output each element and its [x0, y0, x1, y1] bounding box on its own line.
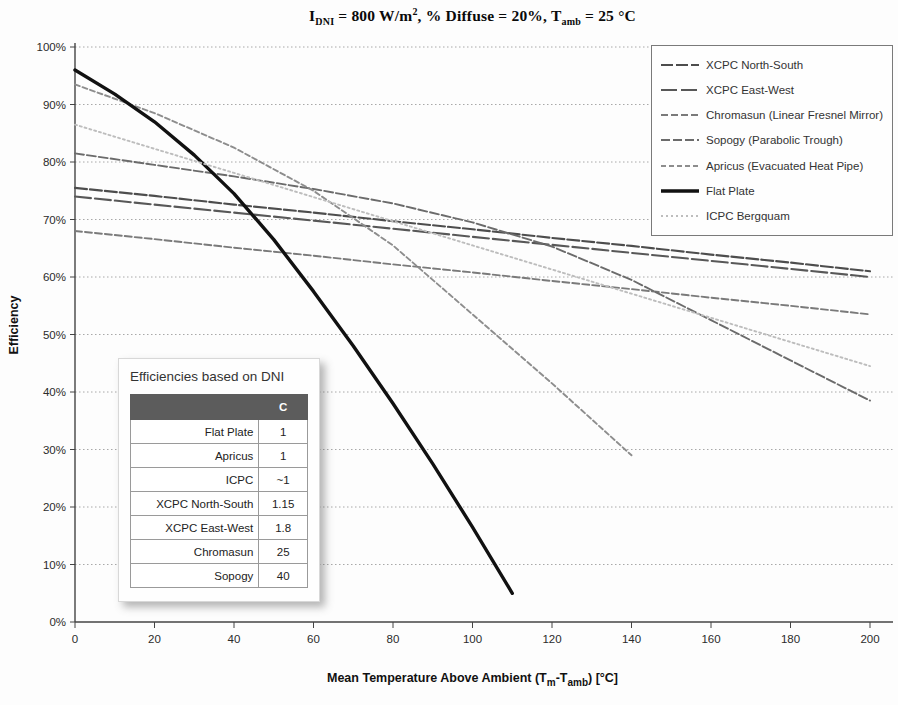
inset-table-row: Sopogy40 [131, 564, 308, 588]
x-axis-title: Mean Temperature Above Ambient (Tm-Tamb)… [75, 671, 870, 688]
concentration-value-cell: 40 [259, 564, 308, 588]
chart-page: 0%10%20%30%40%50%60%70%80%90%100%0204060… [0, 0, 898, 705]
text-segment: m [547, 677, 556, 688]
legend-item-flat_plate: Flat Plate [660, 179, 884, 203]
text-segment: Mean Temperature Above Ambient (T [327, 671, 547, 685]
legend-label: Flat Plate [706, 185, 755, 197]
legend-line-sample-apricus [660, 161, 700, 171]
y-tick-label: 40% [43, 386, 66, 398]
x-tick-label: 140 [622, 633, 641, 645]
x-tick-label: 40 [228, 633, 241, 645]
x-tick-label: 60 [307, 633, 320, 645]
y-tick-label: 0% [49, 616, 66, 628]
text-segment: = 800 W/m [334, 7, 412, 24]
legend-line-sample-flat_plate [660, 186, 700, 196]
legend-line-sample-xcpc_ns [660, 60, 700, 70]
concentration-value-cell: 1 [259, 444, 308, 468]
legend-line-sample-chromasun [660, 110, 700, 120]
collector-name-cell: ICPC [131, 468, 259, 492]
x-tick-label: 20 [148, 633, 161, 645]
y-tick-label: 100% [37, 41, 66, 53]
text-segment: amb [561, 16, 581, 27]
y-tick-label: 50% [43, 329, 66, 341]
x-tick-label: 160 [701, 633, 720, 645]
text-segment: -T [556, 671, 568, 685]
y-axis-title: Efficiency [7, 275, 21, 375]
concentration-value-cell: 1.8 [259, 516, 308, 540]
series-line-chromasun [75, 231, 870, 314]
y-tick-label: 10% [43, 559, 66, 571]
inset-table-row: Apricus1 [131, 444, 308, 468]
x-tick-label: 0 [72, 633, 78, 645]
legend-line-sample-sopogy [660, 135, 700, 145]
x-tick-label: 120 [542, 633, 561, 645]
y-tick-label: 80% [43, 156, 66, 168]
legend-item-apricus: Apricus (Evacuated Heat Pipe) [660, 154, 884, 178]
x-tick-label: 80 [387, 633, 400, 645]
legend-item-xcpc_ns: XCPC North-South [660, 53, 884, 77]
y-tick-label: 60% [43, 271, 66, 283]
legend-item-xcpc_ew: XCPC East-West [660, 78, 884, 102]
collector-name-cell: XCPC East-West [131, 516, 259, 540]
legend-item-icpc: ICPC Bergquam [660, 204, 884, 228]
collector-name-cell: XCPC North-South [131, 492, 259, 516]
legend-line-sample-icpc [660, 211, 700, 221]
collector-name-cell: Apricus [131, 444, 259, 468]
collector-name-cell: Sopogy [131, 564, 259, 588]
collector-name-cell: Chromasun [131, 540, 259, 564]
legend-label: Sopogy (Parabolic Trough) [706, 134, 843, 146]
concentration-table: CFlat Plate1Apricus1ICPC~1XCPC North-Sou… [130, 394, 308, 588]
inset-table-row: Flat Plate1 [131, 420, 308, 444]
chart-legend: XCPC North-SouthXCPC East-WestChromasun … [651, 45, 893, 236]
legend-label: Apricus (Evacuated Heat Pipe) [706, 160, 863, 172]
y-tick-label: 30% [43, 444, 66, 456]
chart-title: IDNI = 800 W/m2, % Diffuse = 20%, Tamb =… [75, 6, 870, 27]
text-segment: DNI [315, 16, 334, 27]
collector-name-cell: Flat Plate [131, 420, 259, 444]
legend-item-chromasun: Chromasun (Linear Fresnel Mirror) [660, 103, 884, 127]
concentration-value-cell: 1 [259, 420, 308, 444]
legend-label: XCPC East-West [706, 84, 794, 96]
x-tick-label: 200 [860, 633, 879, 645]
inset-table-row: Chromasun25 [131, 540, 308, 564]
y-tick-label: 20% [43, 501, 66, 513]
inset-header-cell [131, 395, 259, 420]
inset-table-row: XCPC East-West1.8 [131, 516, 308, 540]
legend-label: ICPC Bergquam [706, 210, 790, 222]
concentration-value-cell: 1.15 [259, 492, 308, 516]
text-segment: amb [567, 677, 588, 688]
legend-label: XCPC North-South [706, 59, 803, 71]
x-tick-label: 180 [781, 633, 800, 645]
y-tick-label: 70% [43, 214, 66, 226]
concentration-inset-card: Efficiencies based on DNI CFlat Plate1Ap… [118, 358, 320, 602]
legend-line-sample-xcpc_ew [660, 85, 700, 95]
text-segment: = 25 °C [581, 7, 636, 24]
inset-table-row: ICPC~1 [131, 468, 308, 492]
concentration-value-cell: 25 [259, 540, 308, 564]
text-segment: , % Diffuse = 20%, T [418, 7, 562, 24]
x-tick-label: 100 [463, 633, 482, 645]
inset-table-row: XCPC North-South1.15 [131, 492, 308, 516]
inset-header-cell: C [259, 395, 308, 420]
text-segment: ) [°C] [588, 671, 618, 685]
legend-item-sopogy: Sopogy (Parabolic Trough) [660, 128, 884, 152]
concentration-value-cell: ~1 [259, 468, 308, 492]
inset-title: Efficiencies based on DNI [130, 369, 308, 384]
legend-label: Chromasun (Linear Fresnel Mirror) [706, 109, 883, 121]
inset-table-header-row: C [131, 395, 308, 420]
y-tick-label: 90% [43, 99, 66, 111]
